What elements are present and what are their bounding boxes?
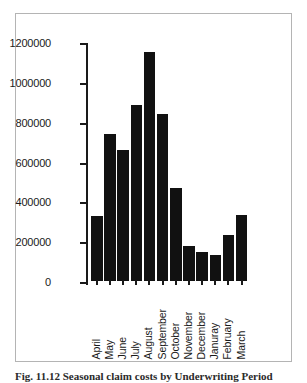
x-axis-tick-label: September (156, 309, 167, 359)
x-axis-tick-label: August (143, 327, 154, 359)
bar (157, 114, 169, 281)
bar (144, 52, 156, 281)
x-axis-tick-label: April (90, 338, 101, 359)
bar (91, 216, 103, 281)
x-axis-tick (188, 280, 190, 285)
figure-caption: Fig. 11.12 Seasonal claim costs by Under… (15, 370, 300, 383)
bar (104, 134, 116, 281)
x-axis-tick-label: February (222, 318, 233, 359)
x-axis-tick (135, 280, 137, 285)
x-axis-tick-label: October (169, 322, 180, 359)
x-axis-tick-label: May (103, 339, 114, 359)
x-axis-tick-label: December (196, 311, 207, 359)
bar (210, 255, 222, 281)
x-axis-tick (201, 280, 203, 285)
x-axis-tick (96, 280, 98, 285)
bar (131, 105, 143, 281)
x-axis-tick (148, 280, 150, 285)
plot-area: 020000040000060000080000010000001200000 … (16, 14, 291, 361)
x-axis-tick (214, 280, 216, 285)
x-axis-tick (162, 280, 164, 285)
x-axis-tick (227, 280, 229, 285)
x-axis-tick (122, 280, 124, 285)
bar (236, 215, 248, 281)
x-axis-tick-label: July (130, 341, 141, 359)
bar (183, 246, 195, 281)
x-axis-tick-label: Januray (209, 322, 220, 359)
bar (170, 188, 182, 281)
bar-series (16, 14, 291, 361)
x-axis-tick (175, 280, 177, 285)
chart-frame: 020000040000060000080000010000001200000 … (15, 13, 292, 362)
x-axis-tick (241, 280, 243, 285)
bar (117, 150, 129, 281)
x-axis-tick-label: March (235, 330, 246, 359)
x-axis-tick-label: November (182, 311, 193, 359)
bar (223, 235, 235, 281)
bar (196, 252, 208, 281)
x-axis-tick (109, 280, 111, 285)
x-axis-tick-label: June (117, 337, 128, 359)
